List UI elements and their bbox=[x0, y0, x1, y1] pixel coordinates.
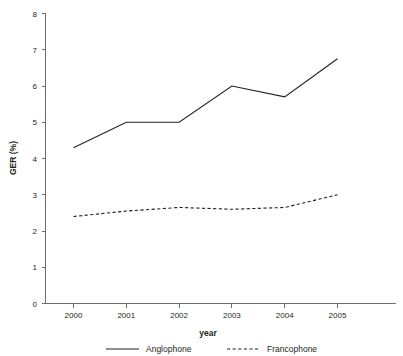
x-tick-label: 2000 bbox=[65, 311, 83, 320]
y-tick-label: 6 bbox=[33, 82, 38, 91]
y-tick-label: 0 bbox=[33, 300, 38, 309]
x-tick-label: 2002 bbox=[170, 311, 188, 320]
y-axis-tick-labels: 0 1 2 3 4 5 6 7 8 bbox=[33, 10, 38, 309]
y-tick-label: 8 bbox=[33, 10, 38, 19]
x-axis-tick-labels: 2000 2001 2002 2003 2004 2005 bbox=[65, 311, 347, 320]
y-tick-label: 1 bbox=[33, 263, 38, 272]
y-tick-label: 4 bbox=[33, 155, 38, 164]
chart-legend: Anglophone Francophone bbox=[106, 344, 317, 354]
legend-label-anglophone: Anglophone bbox=[146, 344, 192, 354]
series-line-francophone bbox=[74, 195, 338, 217]
y-axis-ticks bbox=[42, 14, 46, 304]
x-tick-label: 2001 bbox=[117, 311, 135, 320]
y-tick-label: 3 bbox=[33, 191, 38, 200]
chart-figure: 0 1 2 3 4 5 6 7 8 2000 2001 2002 2003 20… bbox=[0, 0, 403, 356]
y-axis-title: GER (%) bbox=[8, 141, 18, 175]
x-tick-label: 2005 bbox=[329, 311, 347, 320]
y-tick-label: 2 bbox=[33, 227, 38, 236]
x-axis-ticks bbox=[74, 304, 338, 308]
legend-label-francophone: Francophone bbox=[267, 344, 317, 354]
x-axis-title: year bbox=[199, 328, 217, 338]
y-tick-label: 7 bbox=[33, 46, 38, 55]
line-chart: 0 1 2 3 4 5 6 7 8 2000 2001 2002 2003 20… bbox=[0, 0, 403, 356]
x-tick-label: 2004 bbox=[276, 311, 294, 320]
y-tick-label: 5 bbox=[33, 118, 38, 127]
x-tick-label: 2003 bbox=[223, 311, 241, 320]
series-line-anglophone bbox=[74, 59, 338, 148]
